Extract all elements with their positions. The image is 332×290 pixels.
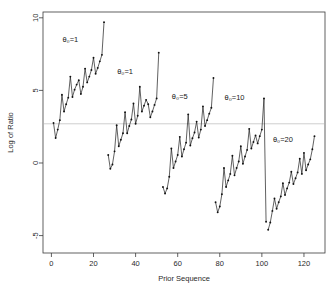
data-point xyxy=(248,128,250,130)
data-point xyxy=(135,123,137,125)
series-line-1 xyxy=(108,53,159,169)
data-point xyxy=(156,97,158,99)
data-point xyxy=(227,179,229,181)
data-point xyxy=(124,111,126,113)
data-point xyxy=(118,145,120,147)
data-point xyxy=(250,148,252,150)
data-point xyxy=(240,145,242,147)
data-point xyxy=(65,103,67,105)
data-point xyxy=(63,111,65,113)
data-point xyxy=(177,154,179,156)
series-line-4 xyxy=(268,136,314,230)
data-point xyxy=(59,119,61,121)
data-point xyxy=(61,94,63,96)
data-point xyxy=(276,208,278,210)
data-point xyxy=(122,132,124,134)
data-point xyxy=(295,177,297,179)
data-point xyxy=(76,84,78,86)
data-point xyxy=(231,155,233,157)
data-point xyxy=(128,125,130,127)
data-point xyxy=(93,57,95,59)
data-point xyxy=(219,206,221,208)
data-point xyxy=(166,187,168,189)
data-point xyxy=(164,193,166,195)
data-point xyxy=(265,221,267,223)
data-point xyxy=(57,129,59,131)
data-point xyxy=(151,111,153,113)
data-point xyxy=(225,186,227,188)
x-tick-label: 20 xyxy=(89,259,97,268)
data-point xyxy=(149,116,151,118)
data-point xyxy=(299,158,301,160)
data-point xyxy=(107,154,109,156)
data-point xyxy=(86,81,88,83)
data-point xyxy=(170,148,172,150)
data-point xyxy=(143,105,145,107)
series-line-3 xyxy=(216,98,267,221)
data-point xyxy=(145,99,147,101)
data-point xyxy=(307,163,309,165)
data-point xyxy=(284,194,286,196)
x-axis-title: Prior Sequence xyxy=(158,274,210,283)
data-point xyxy=(246,149,248,151)
x-tick-label: 40 xyxy=(131,259,139,268)
data-point xyxy=(181,156,183,158)
data-point xyxy=(109,168,111,170)
data-point xyxy=(88,76,90,78)
data-point xyxy=(84,68,86,70)
x-tick-label: 0 xyxy=(49,259,53,268)
data-point xyxy=(173,167,175,169)
data-point xyxy=(288,182,290,184)
data-point xyxy=(290,171,292,173)
data-point xyxy=(168,176,170,178)
data-point xyxy=(234,174,236,176)
x-tick-label: 60 xyxy=(174,259,182,268)
data-point xyxy=(305,169,307,171)
data-point xyxy=(137,115,139,117)
annotation-label-4: θ₀=20 xyxy=(273,135,293,144)
data-point xyxy=(112,163,114,165)
data-point xyxy=(223,167,225,169)
data-point xyxy=(244,156,246,158)
y-tick-label: -5 xyxy=(31,232,40,239)
data-point xyxy=(158,52,160,54)
data-point xyxy=(202,105,204,107)
data-point xyxy=(67,97,69,99)
data-point xyxy=(303,152,305,154)
data-point xyxy=(189,145,191,147)
data-point xyxy=(130,118,132,120)
data-point xyxy=(154,104,156,106)
data-point xyxy=(196,121,198,123)
data-point xyxy=(269,222,271,224)
data-point xyxy=(90,69,92,71)
data-point xyxy=(286,187,288,189)
x-tick-label: 80 xyxy=(216,259,224,268)
annotation-label-2: θ₀=5 xyxy=(172,92,188,101)
data-point xyxy=(274,198,276,200)
data-point xyxy=(242,163,244,165)
data-point xyxy=(147,103,149,105)
data-point xyxy=(271,210,273,212)
data-point xyxy=(311,148,313,150)
data-point xyxy=(215,201,217,203)
data-point xyxy=(194,132,196,134)
annotation-label-3: θ₀=10 xyxy=(225,93,245,102)
data-point xyxy=(236,167,238,169)
data-point xyxy=(204,125,206,127)
data-point xyxy=(309,158,311,160)
data-point xyxy=(133,103,135,105)
data-point xyxy=(208,113,210,115)
data-point xyxy=(120,139,122,141)
data-point xyxy=(103,21,105,23)
data-point xyxy=(191,137,193,139)
data-point xyxy=(82,86,84,88)
data-point xyxy=(206,119,208,121)
data-point xyxy=(69,76,71,78)
data-point xyxy=(101,54,103,56)
data-point xyxy=(97,67,99,69)
chart-figure: 1050-5020406080100120Prior SequenceLog o… xyxy=(0,0,332,290)
x-tick-label: 120 xyxy=(298,259,311,268)
data-point xyxy=(253,141,255,143)
data-point xyxy=(210,107,212,109)
data-point xyxy=(198,137,200,139)
